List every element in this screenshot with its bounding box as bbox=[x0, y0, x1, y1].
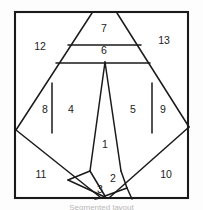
partition-diagram: 12345678910111213 bbox=[0, 0, 203, 210]
diagram-frame bbox=[15, 12, 188, 198]
figure-caption: Segmented layout bbox=[0, 202, 203, 210]
diagram-figure: 12345678910111213 Segmented layout bbox=[0, 0, 203, 210]
